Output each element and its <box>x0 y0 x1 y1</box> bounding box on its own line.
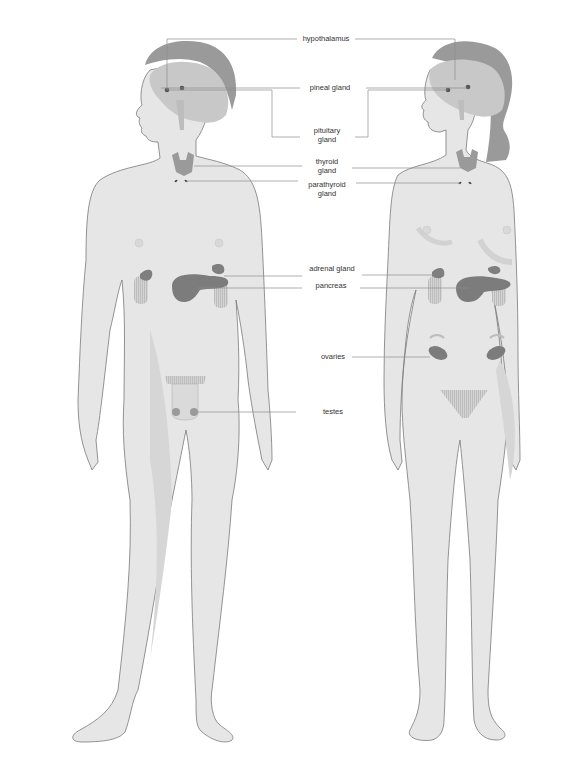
label-thyroid-line1: thyroid <box>316 157 339 166</box>
label-testes: testes <box>322 407 344 416</box>
label-ovaries: ovaries <box>320 352 346 361</box>
female-kidney-left <box>428 276 442 304</box>
endocrine-diagram: hypothalamus pineal gland pituitary glan… <box>0 0 585 782</box>
label-pituitary-line2: gland <box>318 135 336 144</box>
label-pineal-gland: pineal gland <box>309 83 351 92</box>
label-parathyroid-line1: parathyroid <box>308 180 346 189</box>
label-parathyroid-gland: parathyroid gland <box>307 180 347 198</box>
label-thyroid-line2: gland <box>318 166 336 175</box>
label-pituitary-gland: pituitary gland <box>313 126 341 144</box>
label-pituitary-line1: pituitary <box>314 126 340 135</box>
male-figure <box>73 41 272 742</box>
label-thyroid-gland: thyroid gland <box>315 157 340 175</box>
male-pubic-hair <box>165 376 206 384</box>
label-parathyroid-line2: gland <box>318 189 336 198</box>
anatomy-illustration <box>0 0 585 782</box>
male-testis-right <box>190 408 198 416</box>
male-testis-left <box>172 408 180 416</box>
female-figure <box>384 41 520 740</box>
label-hypothalamus: hypothalamus <box>302 34 351 43</box>
female-pineal <box>466 85 471 90</box>
label-adrenal-gland: adrenal gland <box>308 264 355 273</box>
label-pancreas: pancreas <box>315 281 348 290</box>
